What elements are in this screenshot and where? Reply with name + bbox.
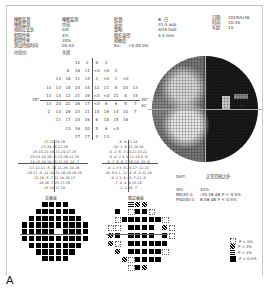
probability-symbol: [142, 209, 147, 214]
probability-symbol: [49, 249, 54, 254]
probability-symbol: [22, 202, 27, 207]
threshold-value: 18: [63, 85, 73, 90]
probability-symbol: [42, 209, 47, 214]
light-hatch-icon: [230, 244, 235, 249]
probability-symbol: [76, 256, 81, 261]
probability-symbol: [63, 263, 68, 268]
probability-symbol: [162, 265, 167, 270]
probability-symbol: [115, 209, 120, 214]
probability-symbol: [122, 249, 127, 254]
probability-symbol: [108, 202, 113, 207]
threshold-value: 20: [53, 101, 63, 106]
probability-symbol: [128, 249, 133, 254]
legend-item-p05: P < 0.5%: [230, 256, 257, 262]
axis-label-right: 30°: [141, 97, 148, 102]
probability-symbol: [155, 257, 160, 262]
probability-symbol: [169, 273, 174, 278]
threshold-value: 7: [130, 101, 140, 106]
probability-symbol: [115, 202, 120, 207]
probability-symbol: [149, 249, 154, 254]
probability-symbol: [169, 233, 175, 239]
threshold-value: <0: [101, 93, 111, 98]
threshold-value: 16: [121, 117, 131, 122]
probability-symbol: [63, 249, 68, 254]
probability-symbol: [83, 236, 88, 241]
probability-symbol: [69, 222, 74, 227]
probability-symbol: [149, 217, 154, 222]
threshold-value: <0: [92, 101, 102, 106]
probability-symbol: [155, 209, 160, 214]
probability-symbol: [108, 249, 113, 254]
threshold-value: 20: [121, 85, 131, 90]
threshold-value: 18: [63, 76, 73, 81]
threshold-value: 16: [82, 93, 92, 98]
solid-black-square-icon: [230, 256, 236, 262]
td-horizontal-axis: [18, 163, 88, 164]
threshold-value: 8: [111, 85, 121, 90]
probability-symbol: [135, 265, 140, 270]
probability-symbol: [122, 257, 127, 262]
probability-symbol: [29, 236, 34, 241]
probability-symbol: [42, 263, 47, 268]
probability-symbol: [128, 257, 134, 263]
probability-symbol: [22, 249, 27, 254]
probability-symbol: [122, 265, 127, 270]
probability-symbol: [169, 225, 175, 231]
probability-symbol: [83, 263, 88, 268]
pattern-deviation-title: 模式偏差: [128, 196, 144, 201]
header-label: 年龄:: [212, 25, 221, 30]
probability-symbol: [142, 225, 147, 230]
probability-symbol: [69, 236, 74, 241]
probability-symbol: [63, 236, 68, 241]
header-label: 测试持续时间: [14, 43, 38, 48]
probability-symbol: [108, 225, 114, 231]
probability-symbol: [155, 273, 160, 278]
probability-symbol: [36, 202, 41, 207]
probability-symbol: [162, 273, 167, 278]
threshold-value: 12: [92, 85, 102, 90]
probability-symbol: [42, 236, 47, 241]
probability-symbol: [69, 243, 74, 248]
probability-symbol: [128, 273, 133, 278]
probability-symbol: [29, 243, 34, 248]
threshold-value: 13: [53, 85, 63, 90]
probability-symbol: [29, 249, 34, 254]
probability-symbol: [169, 209, 174, 214]
probability-symbol: [142, 249, 147, 254]
threshold-value: 21: [73, 93, 83, 98]
probability-symbol: [56, 249, 61, 254]
threshold-value: <0: [111, 126, 121, 131]
probability-symbol: [29, 209, 34, 214]
probability-symbol: [83, 222, 88, 227]
threshold-value: 23: [73, 109, 83, 114]
probability-symbol: [108, 265, 113, 270]
probability-symbol: [22, 243, 27, 248]
probability-symbol: [22, 222, 27, 227]
threshold-value: 6: [111, 101, 121, 106]
probability-symbol: [142, 265, 147, 270]
probability-symbol: [56, 202, 61, 207]
probability-symbol: [56, 256, 61, 261]
threshold-value: 12: [73, 60, 83, 65]
probability-symbol: [42, 249, 47, 254]
total-deviation-probability-map: [22, 202, 88, 268]
probability-symbol: [169, 241, 174, 246]
probability-symbol: [128, 217, 133, 222]
psd-value: 8.58 dB P < 0.5%: [200, 197, 237, 202]
probability-symbol: [108, 241, 113, 246]
probability-symbol: [122, 217, 127, 222]
probability-symbol: [149, 257, 154, 262]
header-value: 4.4 mm: [158, 33, 177, 38]
threshold-value: 11: [82, 109, 92, 114]
probability-symbol: [128, 209, 134, 215]
threshold-value: 15: [111, 117, 121, 122]
probability-symbol: [115, 241, 121, 247]
probability-symbol: [135, 249, 140, 254]
probability-symbol: [128, 265, 134, 271]
probability-symbol: [49, 202, 54, 207]
probability-symbol: [42, 202, 47, 207]
probability-symbol: [22, 236, 27, 241]
threshold-value: 2: [101, 60, 111, 65]
probability-symbol: [149, 225, 154, 230]
threshold-value: 22: [63, 101, 73, 106]
